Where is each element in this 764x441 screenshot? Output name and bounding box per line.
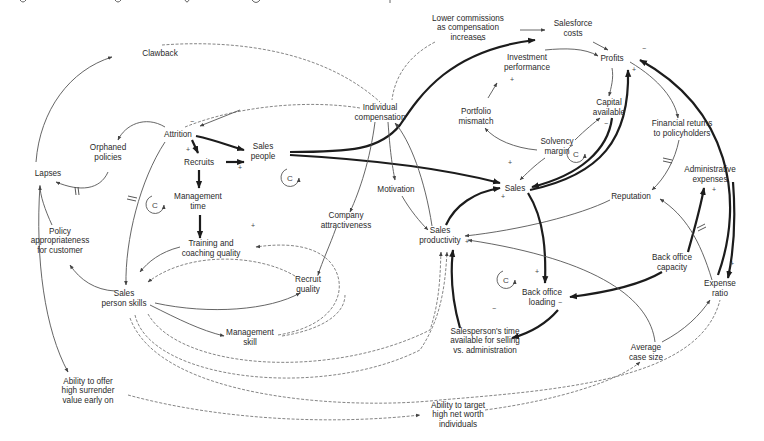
- plus-sign: +: [238, 164, 242, 171]
- svg-text:C: C: [573, 150, 579, 159]
- node-ability-surrender: Ability to offerhigh surrendervalue earl…: [62, 377, 115, 405]
- node-salesforce-costs: Salesforcecosts: [554, 19, 593, 38]
- node-clawback: Clawback: [142, 49, 178, 58]
- svg-text:C: C: [503, 276, 509, 285]
- node-management-time: Managementtime: [174, 192, 223, 211]
- plus-sign: +: [501, 193, 505, 200]
- minus-sign: −: [190, 118, 194, 125]
- loop-marker-2: C: [281, 169, 299, 186]
- node-profits: Profits: [600, 54, 623, 63]
- node-recruits: Recruits: [184, 158, 214, 167]
- minus-sign: −: [492, 305, 496, 312]
- minus-sign: −: [604, 120, 608, 127]
- node-salesperson-time: Salesperson's timeavailable for sellingv…: [450, 327, 520, 355]
- plus-sign: +: [465, 238, 469, 245]
- svg-text:C: C: [152, 201, 158, 210]
- node-lower-comm: Lower commissionsas compensationincrease…: [432, 14, 504, 42]
- loop-marker-1: C: [146, 196, 164, 213]
- node-expense-ratio: Expenseratio: [704, 279, 736, 298]
- loop-marker-3: C: [567, 145, 585, 162]
- node-individual-comp: Individualcompensation: [355, 103, 406, 122]
- plus-sign: +: [508, 159, 512, 166]
- node-policy-approp: Policyappropriatenessfor customer: [31, 227, 90, 255]
- minus-sign: −: [558, 299, 562, 306]
- node-attrition: Attrition: [164, 130, 192, 139]
- node-sales-people: Salespeople: [251, 142, 276, 161]
- node-sales: Sales: [505, 184, 525, 193]
- node-back-office-loading: Back officeloading: [522, 288, 562, 307]
- node-investment-perf: Investmentperformance: [504, 53, 550, 72]
- loop-marker-4: C: [497, 271, 515, 288]
- node-portfolio-mismatch: Portfoliomismatch: [458, 107, 493, 126]
- node-back-office-capacity: Back officecapacity: [652, 253, 692, 272]
- nodes: ClawbackLower commissionsas compensation…: [31, 14, 737, 429]
- plus-sign: +: [251, 222, 255, 229]
- svg-text:C: C: [287, 174, 293, 183]
- node-ability-target: Ability to targethigh net worthindividua…: [431, 401, 486, 429]
- header-fragments: [20, 0, 390, 3]
- plus-sign: +: [186, 146, 190, 153]
- plus-sign: +: [632, 66, 636, 73]
- minus-sign: −: [642, 45, 646, 52]
- node-financial-returns: Financial returnsto policyholders: [652, 119, 713, 138]
- node-reputation: Reputation: [611, 192, 651, 201]
- plus-sign: +: [510, 76, 514, 83]
- node-capital-available: Capitalavailable: [593, 98, 626, 117]
- node-recruit-quality: Recruitquality: [295, 275, 322, 294]
- node-average-case-size: Averagecase size: [629, 343, 664, 362]
- plus-sign: +: [535, 268, 539, 275]
- node-orphaned-policies: Orphanedpolicies: [90, 143, 127, 162]
- node-sales-productivity: Salesproductivity: [419, 226, 461, 245]
- node-salesperson-skills: Salesperson skills: [101, 289, 146, 308]
- plus-sign: +: [730, 260, 734, 267]
- node-lapses: Lapses: [35, 169, 61, 178]
- node-solvency-margin: Solvencymargin: [540, 137, 574, 156]
- node-motivation: Motivation: [377, 185, 415, 194]
- causal-loop-diagram: C C C C +−++−++++−++++−−+ ClawbackLower …: [0, 0, 764, 441]
- node-company-attr: Companyattractiveness: [321, 211, 372, 230]
- node-management-skill: Managementskill: [226, 328, 275, 347]
- plus-sign: +: [712, 186, 716, 193]
- node-training-quality: Training andcoaching quality: [182, 239, 242, 258]
